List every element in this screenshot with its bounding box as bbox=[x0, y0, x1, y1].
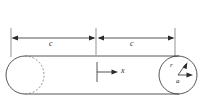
arrowhead-left-inner bbox=[89, 36, 96, 41]
figure-container: c c x r a bbox=[0, 0, 203, 101]
x-axis-indicator bbox=[97, 62, 118, 82]
arrowhead-right-inner bbox=[98, 36, 105, 41]
cylinder-diagram-svg bbox=[0, 0, 203, 101]
offset-label: a bbox=[176, 78, 180, 85]
radius-label: r bbox=[170, 62, 173, 69]
cylinder-body bbox=[6, 56, 197, 94]
dimension-label-left-c: c bbox=[49, 40, 53, 48]
arrowhead-left-outer bbox=[12, 36, 19, 41]
arrowhead-right-outer bbox=[168, 36, 175, 41]
x-axis-label: x bbox=[121, 67, 125, 75]
x-axis-arrowhead bbox=[112, 70, 119, 75]
offset-vector-arrowhead bbox=[187, 73, 194, 78]
left-end-hidden-arc bbox=[25, 56, 44, 94]
cross-section-vectors bbox=[178, 62, 193, 77]
dimension-label-right-c: c bbox=[130, 40, 134, 48]
dimension-chain bbox=[11, 28, 175, 57]
left-end-visible-arc bbox=[6, 56, 25, 94]
